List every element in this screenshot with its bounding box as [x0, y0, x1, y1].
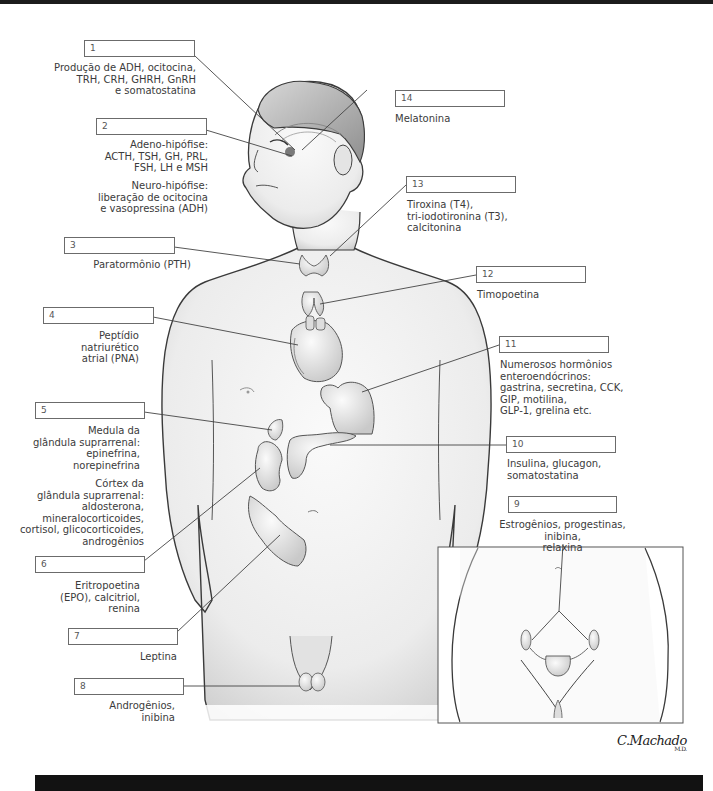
label-box-3[interactable]: 3	[64, 237, 175, 254]
label-text-3: Paratormônio (PTH)	[60, 259, 191, 271]
bottom-border-bar	[35, 775, 703, 791]
label-box-12[interactable]: 12	[476, 266, 586, 283]
label-text-4: Peptídio natriurético atrial (PNA)	[40, 330, 139, 365]
artist-signature: C.Machado M.D.	[617, 733, 687, 752]
label-text-10: Insulina, glucagon, somatostatina	[507, 458, 647, 481]
label-box-7[interactable]: 7	[68, 628, 178, 645]
label-text-13: Tiroxina (T4), tri-iodotironina (T3), ca…	[407, 199, 547, 234]
label-box-2[interactable]: 2	[96, 118, 207, 135]
label-text-1: Produção de ADH, ocitocina, TRH, CRH, GH…	[40, 62, 196, 97]
label-text-2b: Neuro-hipófise: liberação de ocitocina e…	[80, 180, 208, 215]
label-box-9[interactable]: 9	[508, 496, 617, 513]
label-box-13[interactable]: 13	[406, 176, 516, 193]
ovary-right	[589, 630, 599, 650]
label-box-6[interactable]: 6	[35, 556, 145, 573]
label-text-5a: Medula da glândula suprarrenal: epinefri…	[20, 425, 140, 471]
label-box-10[interactable]: 10	[506, 436, 616, 453]
label-text-9: Estrogênios, progestinas, inibina, relax…	[480, 519, 645, 554]
kidney	[255, 442, 282, 491]
label-text-2a: Adeno-hipófise: ACTH, TSH, GH, PRL, FSH,…	[80, 139, 208, 174]
female-inset	[438, 547, 683, 723]
label-box-14[interactable]: 14	[395, 90, 505, 107]
label-box-5[interactable]: 5	[35, 402, 145, 419]
label-text-12: Timopoetina	[477, 289, 587, 301]
label-text-11: Numerosos hormônios enteroendócrinos: ga…	[500, 359, 650, 417]
label-text-7: Leptina	[90, 651, 177, 663]
label-box-11[interactable]: 11	[499, 336, 609, 353]
label-text-5b: Córtex da glândula suprarrenal: aldoster…	[10, 478, 144, 547]
label-box-8[interactable]: 8	[74, 678, 184, 695]
label-text-8: Androgênios, inibina	[90, 700, 175, 723]
label-box-1[interactable]: 1	[84, 40, 195, 57]
ovary-left	[521, 630, 531, 650]
label-text-14: Melatonina	[395, 113, 505, 125]
label-text-6: Eritropoetina (EPO), calcitriol, renina	[40, 580, 140, 615]
label-box-4[interactable]: 4	[43, 307, 154, 324]
